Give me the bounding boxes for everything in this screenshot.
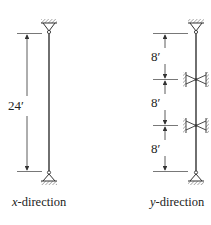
x-direction-column-diagram: 24′ x-direction: [8, 19, 67, 209]
top-pin-support-icon: [41, 19, 57, 34]
bottom-pin-support-icon: [188, 171, 204, 185]
segment-label-2: 8′: [151, 95, 161, 110]
caption-text: -direction: [18, 195, 67, 209]
dimension-label-24ft: 24′: [8, 98, 24, 113]
diagram-canvas: 24′ x-direction: [0, 0, 211, 225]
top-pin-support-icon: [188, 19, 204, 34]
x-direction-caption: x-direction: [11, 195, 67, 209]
segment-label-1: 8′: [151, 49, 161, 64]
bottom-pin-support-icon: [41, 171, 57, 185]
y-direction-caption: y-direction: [148, 195, 205, 209]
y-direction-column-diagram: 8′ 8′ 8′ y-direction: [148, 19, 209, 209]
caption-text: -direction: [156, 195, 205, 209]
segment-label-3: 8′: [151, 141, 161, 156]
